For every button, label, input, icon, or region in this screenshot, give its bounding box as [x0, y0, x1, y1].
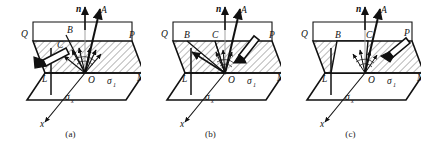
label-sigma-1: σ: [387, 76, 392, 86]
label-P: P: [268, 30, 275, 40]
label-sigma-x: σ: [65, 92, 70, 102]
label-sigma-x: σ: [345, 92, 350, 102]
label-P: P: [403, 28, 410, 38]
label-B: B: [184, 30, 190, 40]
label-Q: Q: [301, 29, 308, 39]
label-Q: Q: [21, 29, 28, 39]
caption-b: (b): [140, 129, 281, 139]
label-A: A: [100, 5, 107, 15]
label-C: C: [212, 30, 219, 40]
label-A: A: [240, 5, 247, 15]
caption-a: (a): [0, 129, 141, 139]
label-A: A: [380, 5, 387, 15]
label-C: C: [57, 40, 64, 50]
label-sigma-1-sub: 1: [253, 82, 256, 88]
label-n: n: [76, 4, 81, 14]
label-Q: Q: [161, 29, 168, 39]
back-frame: [33, 22, 132, 41]
label-n: n: [216, 4, 221, 14]
label-sigma-1: σ: [107, 76, 112, 86]
label-sigma-1-sub: 1: [393, 82, 396, 88]
label-sigma-1-sub: 1: [113, 82, 116, 88]
label-n: n: [356, 4, 361, 14]
label-B: B: [67, 25, 73, 35]
label-L: L: [321, 74, 327, 84]
panel-b: n A Q P B C L M O x σ 1 σ x (b): [140, 0, 281, 141]
label-x-axis: x: [39, 119, 45, 129]
label-P: P: [128, 30, 135, 40]
panel-a: n A Q P B C L M O x σ 1 σ x (a): [0, 0, 141, 141]
caption-c: (c): [280, 129, 421, 139]
label-sigma-x-sub: x: [350, 98, 354, 104]
label-L: L: [181, 74, 187, 84]
label-L: L: [41, 74, 47, 84]
label-C: C: [366, 30, 373, 40]
label-sigma-1: σ: [247, 76, 252, 86]
label-O: O: [88, 75, 95, 85]
back-frame: [313, 22, 412, 41]
label-x-axis: x: [319, 119, 325, 129]
label-sigma-x-sub: x: [70, 98, 74, 104]
label-M: M: [416, 73, 421, 83]
label-O: O: [228, 75, 235, 85]
label-sigma-x-sub: x: [210, 98, 214, 104]
label-O: O: [368, 75, 375, 85]
figure-three-panel-stress-diagram: n A Q P B C L M O x σ 1 σ x (a): [0, 0, 422, 141]
label-x-axis: x: [179, 119, 185, 129]
panel-c: n A Q P B C L M O x σ 1 σ x (c): [280, 0, 421, 141]
label-B: B: [335, 30, 341, 40]
label-sigma-x: σ: [205, 92, 210, 102]
